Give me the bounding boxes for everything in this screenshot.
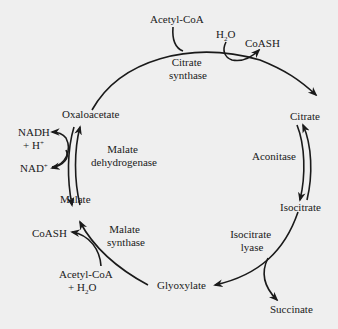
label-isocitrate: Isocitrate (280, 201, 321, 213)
arc-lyase-to-succinate (264, 258, 277, 300)
label-acetyl-coa-top: Acetyl-CoA (150, 13, 204, 25)
label-h-plus: + H+ (23, 139, 44, 151)
label-malate-dehydrogenase: Malate dehydrogenase (91, 143, 157, 168)
label-succinate: Succinate (270, 303, 313, 315)
arc-nad-to-nadh (52, 132, 68, 167)
label-malate: Malate (60, 193, 91, 205)
glyoxylate-cycle-diagram: Acetyl-CoA H2O CoASH Citrate Isocitrate … (0, 0, 338, 329)
label-h2o-bottom: + H2O (68, 281, 96, 296)
arc-citrate-to-isocitrate (297, 125, 304, 200)
label-coash-bottom: CoASH (32, 227, 67, 239)
label-aconitase: Aconitase (252, 150, 296, 162)
label-isocitrate-lyase: Isocitrate lyase (230, 228, 274, 253)
label-nadh: NADH (18, 126, 50, 138)
label-h2o-top: H2O (216, 28, 235, 43)
label-citrate: Citrate (290, 110, 320, 122)
label-nad: NAD+ (20, 162, 48, 174)
label-malate-synthase: Malate synthase (107, 223, 145, 248)
label-oxaloacetate: Oxaloacetate (62, 108, 120, 120)
arc-acetylcoa-to-coash (72, 232, 101, 266)
label-citrate-synthase: Citrate synthase (169, 56, 207, 81)
label-acetyl-coa-bottom: Acetyl-CoA (59, 268, 113, 280)
label-coash-top: CoASH (245, 37, 280, 49)
label-glyoxylate: Glyoxylate (157, 279, 206, 291)
arc-acetylcoa-in (173, 27, 183, 51)
